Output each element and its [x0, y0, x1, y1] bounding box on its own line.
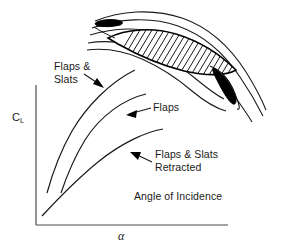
y-axis-label-main: C [12, 111, 20, 123]
annotation-label-flaps-text: Flaps [153, 101, 179, 113]
annotation-label-flaps-and-slats-retracted: Flaps & Slats Retracted [155, 148, 218, 173]
slat-element [95, 20, 122, 27]
arrowhead-flaps [126, 110, 137, 118]
annotation-label-flaps-and-slats-line2: Slats [54, 73, 90, 86]
figure-canvas [0, 0, 291, 248]
curve-flaps-and-slats-retracted [42, 129, 163, 216]
annotation-label-flaps-and-slats-line1: Flaps & [54, 60, 90, 73]
annotation-label-flaps-and-slats: Flaps & Slats [54, 60, 90, 85]
annotation-leaders [84, 74, 152, 162]
y-axis-label-subscript: L [20, 116, 24, 125]
arrowhead-flaps-slats [93, 78, 104, 88]
annotation-label-flaps: Flaps [153, 101, 179, 113]
x-axis-label-text: α [118, 229, 124, 243]
annotation-label-angle-of-incidence: Angle of Incidence [134, 190, 222, 202]
annotation-label-retracted-line2: Retracted [155, 161, 218, 174]
annotation-label-angle-of-incidence-text: Angle of Incidence [134, 190, 222, 202]
x-axis-label: α [118, 230, 124, 242]
y-axis-label: CL [12, 111, 24, 125]
curve-flaps [61, 94, 146, 193]
annotation-label-retracted-line1: Flaps & Slats [155, 148, 218, 161]
lift-curve-figure: Flaps & Slats Flaps Flaps & Slats Retrac… [0, 0, 291, 248]
arrowhead-flaps-slats-retracted [130, 152, 141, 160]
